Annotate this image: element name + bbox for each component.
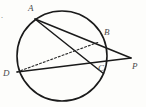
vertex-label-c: C — [98, 64, 104, 73]
geometry-figure: . A B C D P — [0, 0, 146, 107]
vertex-label-p: P — [132, 62, 138, 71]
secant-line-a-p — [35, 19, 131, 58]
diagram-canvas — [0, 0, 146, 107]
vertex-label-a: A — [28, 4, 34, 13]
vertex-label-b: B — [104, 28, 110, 37]
secant-line-d-p — [17, 58, 131, 72]
vertex-label-d: D — [3, 69, 10, 78]
